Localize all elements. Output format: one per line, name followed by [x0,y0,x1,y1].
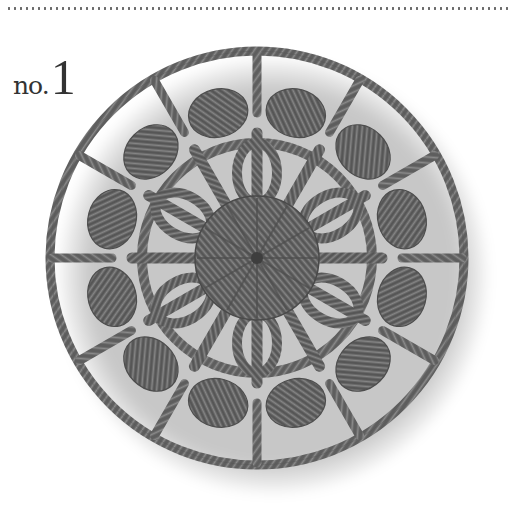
dotted-divider [6,7,511,10]
crochet-doily-photo [37,34,483,486]
